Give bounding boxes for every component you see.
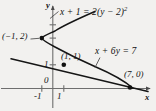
x-axis-label: x — [145, 93, 149, 102]
point-marker-1-1 — [62, 63, 67, 68]
x-tick-label-neg1: -1 — [34, 92, 42, 101]
point-label-vertex: (−1, 2) — [2, 32, 28, 41]
y-axis-label: y — [46, 1, 50, 10]
y-tick-label-1: 1 — [44, 60, 49, 69]
leader-line-vertex — [31, 38, 40, 39]
parabola-equation-text: x + 1 = 2(y − 2) — [60, 7, 124, 17]
point-label-intersection-1: (1, 1) — [61, 52, 81, 61]
parabola-equation-exponent: 2 — [124, 5, 127, 12]
parabola-equation-label: x + 1 = 2(y − 2)2 — [60, 6, 127, 18]
point-marker-vertex — [40, 36, 45, 41]
point-marker-7-0 — [128, 85, 133, 90]
line-equation-label: x + 6y = 7 — [95, 47, 136, 57]
leader-line-parabola — [50, 12, 59, 19]
leader-line-line — [95, 58, 100, 68]
x-tick-label-1: 1 — [57, 92, 62, 101]
point-label-intersection-2: (7, 0) — [124, 70, 144, 79]
math-figure: x + 1 = 2(y − 2)2 x + 6y = 7 (−1, 2) (1,… — [0, 0, 156, 111]
origin-label: 0 — [44, 76, 49, 85]
